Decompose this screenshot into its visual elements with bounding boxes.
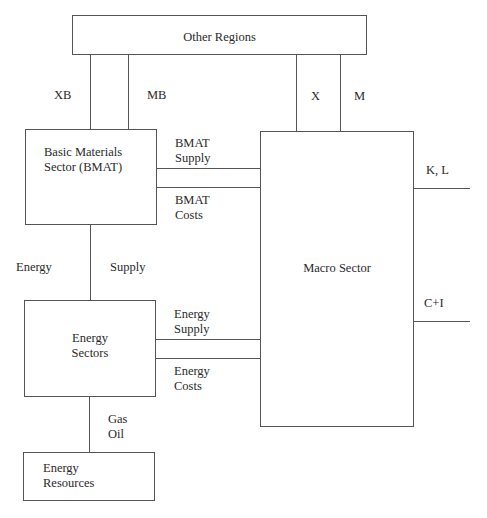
energy-costs-line [155,358,261,359]
bmat-supply-label-line1: BMAT [175,136,210,151]
bmat-label-line1: Basic Materials [44,145,122,160]
bmat-costs-label-line1: BMAT [175,193,210,208]
kl-output-line [413,188,470,189]
energy-sectors-label-line2: Sectors [25,346,155,361]
gas-oil-label-line1: Gas [108,412,127,427]
energy-resources-label-line2: Resources [43,476,94,491]
mb-label: MB [147,88,166,103]
x-label: X [311,89,320,104]
macro-sector-box: Macro Sector [260,131,414,427]
x-connector [296,54,297,132]
xb-label: XB [54,88,71,103]
energy-sectors-box: Energy Sectors [24,300,156,397]
energy-sectors-label-line1: Energy [25,331,155,346]
bmat-label-line2: Sector (BMAT) [44,160,122,175]
other-regions-label: Other Regions [73,30,366,45]
m-connector [340,54,341,132]
bmat-supply-line [156,168,261,169]
energy-supply-connector [90,224,91,301]
bmat-costs-line [156,187,261,188]
energy-costs-label-line1: Energy [174,364,210,379]
bmat-box: Basic Materials Sector (BMAT) [25,129,157,225]
ci-label: C+I [424,296,444,311]
xb-connector [90,54,91,130]
m-label: M [354,89,365,104]
bmat-supply-label-line2: Supply [175,151,210,166]
energy-supply-vertical-right-label: Supply [110,260,145,275]
mb-connector [128,54,129,130]
energy-supply-vertical-left-label: Energy [16,260,52,275]
energy-costs-label-line2: Costs [174,379,202,394]
energy-supply-label-line2: Supply [174,322,209,337]
ci-output-line [413,321,470,322]
gas-oil-label-line2: Oil [108,427,124,442]
energy-resources-box: Energy Resources [23,452,155,501]
gas-oil-connector [89,396,90,453]
bmat-costs-label-line2: Costs [175,208,203,223]
macro-sector-label: Macro Sector [261,261,413,276]
kl-label: K, L [426,163,449,178]
energy-resources-label-line1: Energy [43,461,79,476]
other-regions-box: Other Regions [72,15,367,55]
energy-supply-line [155,339,261,340]
energy-supply-label-line1: Energy [174,307,210,322]
